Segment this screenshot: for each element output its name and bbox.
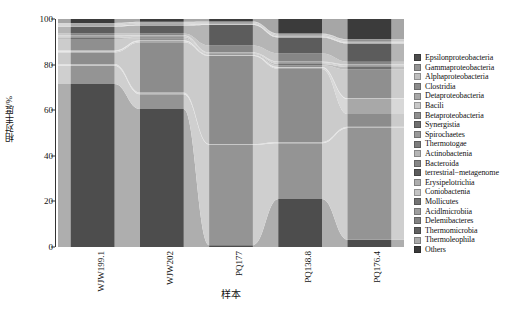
legend-color-swatch — [414, 141, 421, 148]
legend-color-swatch — [414, 246, 421, 253]
legend-color-swatch — [414, 160, 421, 167]
legend: EpsilonproteobacteriaGammaproteobacteria… — [414, 53, 528, 254]
transition-fade — [58, 19, 71, 247]
legend-color-swatch — [414, 237, 421, 244]
legend-item-label: Delemibacteres — [425, 216, 473, 226]
legend-color-swatch — [414, 169, 421, 176]
stacked-area-plot — [58, 19, 404, 247]
transition-fade — [253, 19, 279, 247]
legend-item[interactable]: Thermoleophila — [414, 235, 528, 245]
legend-item-label: Thermoleophila — [425, 235, 475, 245]
legend-item[interactable]: Synergistia — [414, 120, 528, 130]
chart-root: 相对丰度/% 020406080100 WJW199.1WJW202PQ177P… — [0, 0, 528, 321]
legend-item-label: Mollicutes — [425, 197, 458, 207]
legend-item-label: Thermotogae — [425, 139, 467, 149]
legend-item-label: Erysipelotrichia — [425, 178, 475, 188]
legend-item[interactable]: Betaproteobacteria — [414, 111, 528, 121]
y-axis-line — [55, 19, 56, 247]
legend-item[interactable]: Actinobactenia — [414, 149, 528, 159]
legend-color-swatch — [414, 227, 421, 234]
legend-item[interactable]: Gammaproteobacteria — [414, 63, 528, 73]
legend-item-label: Epsilonproteobacteria — [425, 53, 493, 63]
transition-fade — [391, 19, 404, 247]
legend-color-swatch — [414, 208, 421, 215]
x-tick-label: PQ177 — [235, 251, 244, 276]
legend-item[interactable]: Delemibacteres — [414, 216, 528, 226]
transition-fade — [114, 19, 140, 247]
legend-color-swatch — [414, 102, 421, 109]
legend-item[interactable]: Alphaproteobacteria — [414, 72, 528, 82]
legend-color-swatch — [414, 179, 421, 186]
legend-item-label: Synergistia — [425, 120, 460, 130]
legend-item-label: Actinobactenia — [425, 149, 472, 159]
legend-color-swatch — [414, 73, 421, 80]
y-axis: 相对丰度/% 020406080100 — [0, 0, 58, 321]
x-tick-label: WJW202 — [166, 251, 175, 285]
legend-item-label: Acidlmicrobiia — [425, 207, 472, 217]
legend-item[interactable]: Epsilonproteobacteria — [414, 53, 528, 63]
transition-fade — [184, 19, 210, 247]
legend-item-label: Alphaproteobacteria — [425, 72, 488, 82]
legend-item-label: Others — [425, 245, 446, 255]
legend-item-label: Clostridia — [425, 82, 456, 92]
legend-item-label: terrestrial−metagenome — [425, 168, 499, 178]
legend-item-label: Gammaproteobacteria — [425, 63, 494, 73]
legend-item[interactable]: Bacteroida — [414, 159, 528, 169]
legend-item-label: Bacili — [425, 101, 444, 111]
x-axis-title: 样本 — [58, 286, 404, 301]
legend-color-swatch — [414, 64, 421, 71]
legend-color-swatch — [414, 112, 421, 119]
legend-item[interactable]: Thermotogae — [414, 139, 528, 149]
legend-item-label: Spirochaetes — [425, 130, 465, 140]
legend-item[interactable]: Acidlmicrobiia — [414, 207, 528, 217]
legend-item[interactable]: Mollicutes — [414, 197, 528, 207]
legend-item[interactable]: Coniobactenia — [414, 187, 528, 197]
x-tick-label: PQ176.4 — [373, 251, 382, 283]
legend-color-swatch — [414, 93, 421, 100]
legend-item[interactable]: Bacili — [414, 101, 528, 111]
legend-color-swatch — [414, 189, 421, 196]
legend-item[interactable]: Clostridia — [414, 82, 528, 92]
y-axis-title: 相对丰度/% — [4, 96, 18, 142]
legend-color-swatch — [414, 83, 421, 90]
legend-color-swatch — [414, 198, 421, 205]
legend-item-label: Thermomicrobia — [425, 226, 477, 236]
legend-color-swatch — [414, 150, 421, 157]
legend-item-label: Betaproteobacteria — [425, 111, 484, 121]
legend-item-label: Bacteroida — [425, 159, 459, 169]
legend-color-swatch — [414, 217, 421, 224]
x-tick-label: PQ138.8 — [304, 251, 313, 283]
legend-item[interactable]: Spirochaetes — [414, 130, 528, 140]
legend-color-swatch — [414, 131, 421, 138]
legend-item[interactable]: terrestrial−metagenome — [414, 168, 528, 178]
legend-item[interactable]: Others — [414, 245, 528, 255]
plot-area — [58, 19, 404, 247]
legend-item[interactable]: Thermomicrobia — [414, 226, 528, 236]
legend-item-label: Detaproteobacteria — [425, 91, 484, 101]
transition-fade — [322, 19, 348, 247]
legend-item[interactable]: Detaproteobacteria — [414, 91, 528, 101]
legend-color-swatch — [414, 54, 421, 61]
legend-item-label: Coniobactenia — [425, 187, 470, 197]
legend-color-swatch — [414, 121, 421, 128]
legend-item[interactable]: Erysipelotrichia — [414, 178, 528, 188]
